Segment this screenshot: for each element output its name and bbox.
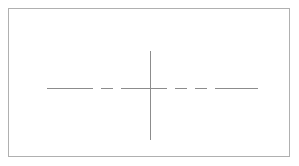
centerline-cross-svg [0,0,299,166]
vector-drawing-area [0,0,299,166]
drawing-canvas-root: Centerline Cross Drawing [0,0,299,166]
